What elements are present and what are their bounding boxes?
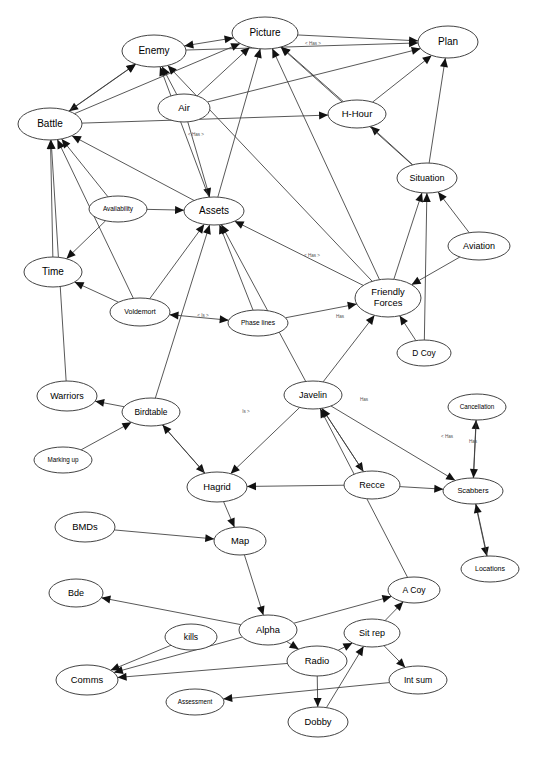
node-label-scabbers: Scabbers [457, 486, 489, 495]
arrowhead-radio [289, 641, 299, 649]
node-availability[interactable]: Availability [89, 196, 147, 222]
node-markingup[interactable]: Marking up [34, 447, 92, 473]
node-plan[interactable]: Plan [418, 26, 478, 58]
node-label-battle: Battle [37, 118, 63, 129]
arrowhead-scabbers [474, 504, 482, 514]
node-intsum[interactable]: Int sum [389, 666, 447, 694]
edge-friendly-to-picture [272, 49, 379, 280]
arrowhead-scabbers [445, 472, 455, 480]
arrowhead-friendly [400, 316, 408, 326]
node-label-time: Time [42, 266, 64, 277]
node-situation[interactable]: Situation [397, 163, 457, 193]
node-label-enemy: Enemy [138, 45, 169, 56]
node-label-dcoy: D Coy [412, 348, 436, 358]
arrowhead-scabbers [470, 469, 478, 478]
node-label-plan: Plan [438, 36, 458, 47]
node-map[interactable]: Map [214, 527, 266, 555]
arrowhead-hhour [319, 111, 328, 119]
edge-recce-to-javelin [322, 408, 364, 471]
edge-hhour-to-picture [281, 47, 343, 102]
node-assessment[interactable]: Assessment [166, 689, 224, 715]
edge-recce-to-hagrid [247, 485, 344, 486]
arrowhead-assessment [223, 694, 232, 702]
arrowhead-assets [175, 206, 184, 214]
node-recce[interactable]: Recce [344, 471, 400, 499]
graph-svg: < Has >< Has >< Has >Has< Is >Is >Has< H… [0, 0, 539, 758]
arrowhead-scabbers [434, 485, 443, 493]
node-air[interactable]: Air [158, 94, 210, 122]
edge-label: < Has > [305, 41, 321, 46]
node-aviation[interactable]: Aviation [448, 232, 510, 260]
node-label-cancellation: Cancellation [460, 403, 495, 410]
edge-label: < Has [441, 434, 454, 439]
edge-phaselines-to-assets [220, 225, 254, 310]
edge-map-to-alpha [244, 555, 263, 615]
node-bde[interactable]: Bde [49, 579, 103, 607]
node-friendly[interactable]: FriendlyForces [355, 279, 421, 317]
node-label-alpha: Alpha [256, 624, 281, 635]
node-time[interactable]: Time [24, 257, 82, 287]
arrowhead-assets [196, 224, 205, 234]
node-enemy[interactable]: Enemy [122, 35, 186, 67]
arrowhead-situation [423, 193, 431, 202]
node-warriors[interactable]: Warriors [37, 381, 97, 411]
arrowhead-assets [203, 225, 211, 235]
node-label-warriors: Warriors [50, 391, 84, 401]
edge-label: < Has > [188, 132, 204, 137]
arrowhead-comms [118, 673, 127, 681]
node-radio[interactable]: Radio [287, 646, 347, 676]
node-label-bde: Bde [68, 588, 84, 598]
edge-label: Has [336, 314, 345, 319]
arrowhead-birdtable [122, 422, 132, 430]
node-battle[interactable]: Battle [18, 108, 82, 140]
node-label-recce: Recce [359, 480, 385, 490]
node-sitrep[interactable]: Sit rep [344, 619, 400, 647]
node-bmds[interactable]: BMDs [55, 512, 115, 542]
node-label-javelin: Javelin [299, 390, 327, 400]
node-label-friendly: FriendlyForces [371, 286, 405, 308]
node-label-availability: Availability [103, 205, 134, 213]
arrowhead-battle [62, 139, 71, 149]
node-label-assets: Assets [199, 205, 229, 216]
node-javelin[interactable]: Javelin [284, 381, 342, 409]
arrowhead-situation [438, 192, 447, 202]
arrowhead-assets [221, 225, 229, 235]
node-phaselines[interactable]: Phase lines [228, 310, 288, 336]
edge-javelin-to-scabbers [331, 406, 455, 481]
node-locations[interactable]: Locations [461, 556, 519, 582]
node-voldemort[interactable]: Voldemort [110, 298, 170, 326]
node-alpha[interactable]: Alpha [239, 615, 297, 645]
concept-map-diagram: < Has >< Has >< Has >Has< Is >Is >Has< H… [0, 0, 539, 758]
edge-javelin-to-hagrid [231, 407, 300, 473]
node-label-assessment: Assessment [178, 698, 213, 705]
edges-layer [47, 35, 489, 708]
arrowhead-bde [101, 596, 111, 604]
node-dcoy[interactable]: D Coy [397, 340, 451, 366]
arrowhead-enemy [126, 64, 136, 72]
node-hhour[interactable]: H-Hour [328, 100, 386, 128]
node-label-radio: Radio [305, 655, 330, 666]
arrowhead-friendly [412, 277, 422, 285]
node-hagrid[interactable]: Hagrid [187, 472, 247, 502]
edge-javelin-to-assets [221, 225, 305, 382]
edge-battle-to-enemy [69, 64, 136, 111]
node-label-bmds: BMDs [72, 521, 98, 532]
node-kills[interactable]: kills [165, 624, 217, 650]
edge-kills-to-comms [111, 645, 171, 670]
edge-label: < Has > [304, 253, 320, 258]
node-comms[interactable]: Comms [56, 665, 118, 695]
node-acoy[interactable]: A Coy [388, 577, 440, 603]
edge-voldemort-to-assets [150, 224, 205, 299]
arrowhead-picture [224, 35, 234, 43]
node-assets[interactable]: Assets [184, 197, 244, 225]
node-dobby[interactable]: Dobby [288, 707, 348, 737]
node-cancellation[interactable]: Cancellation [448, 394, 506, 420]
arrowhead-friendly [347, 302, 357, 310]
node-scabbers[interactable]: Scabbers [443, 478, 503, 504]
node-picture[interactable]: Picture [232, 17, 298, 49]
node-birdtable[interactable]: Birdtable [122, 398, 180, 426]
node-label-map: Map [231, 535, 249, 546]
node-label-picture: Picture [249, 27, 281, 38]
arrowhead-birdtable [162, 425, 171, 434]
edge-bmds-to-map [114, 530, 214, 539]
